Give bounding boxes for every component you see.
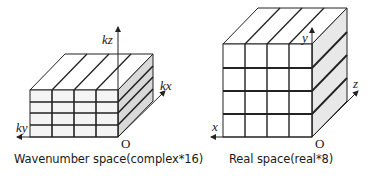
ky-label: ky: [16, 120, 28, 135]
left-origin-label: O: [121, 136, 130, 151]
right-origin-label: O: [315, 136, 324, 151]
wavenumber-space-caption: Wavenumber space(complex*16): [14, 152, 203, 166]
real-space-box: [223, 8, 347, 137]
z-label: z: [352, 76, 358, 91]
x-label: x: [211, 119, 218, 134]
y-label: y: [300, 30, 308, 45]
wavenumber-space-box: [30, 54, 153, 137]
kz-label: kz: [102, 32, 113, 47]
fft-layout-diagram: kz kx ky O y z x O: [0, 0, 374, 176]
kx-label: kx: [160, 78, 172, 93]
real-space-caption: Real space(real*8): [229, 152, 333, 166]
